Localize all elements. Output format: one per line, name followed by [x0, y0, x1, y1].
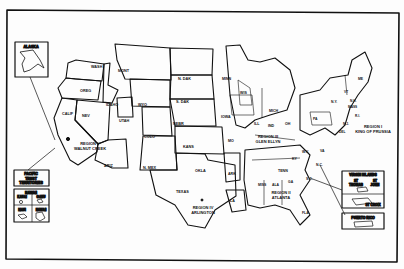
region-v-office-marker [66, 137, 69, 140]
st-thomas-2: THOMAS [349, 183, 363, 187]
label-mo: MO [228, 139, 234, 143]
oahu-label: OAHU [37, 195, 46, 199]
label-nev: NEV [82, 114, 90, 118]
pacific-label-1: PACIFIC [24, 172, 38, 176]
label-fla: FLA [302, 211, 309, 215]
label-nmex: N. MEX [143, 166, 157, 170]
label-texas: TEXAS [176, 190, 189, 194]
label-colo: COLO [144, 135, 155, 139]
hawaii-title: HAWAII [25, 191, 37, 195]
region-central [115, 44, 246, 228]
pacific-label-3: TERRITORIES [19, 181, 43, 185]
label-ind: IND [268, 124, 275, 128]
alaska-label: ALASKA [24, 45, 39, 49]
label-oh: OH [285, 122, 291, 126]
label-ndak: N. DAK [178, 77, 191, 81]
label-tenn: TENN [278, 169, 288, 173]
kauai-label: KAUAI [17, 195, 27, 199]
label-nh: N.H. [350, 99, 356, 103]
label-mass: MASS [348, 105, 357, 109]
pacific-hawaii-insets: PACIFIC TRUST TERRITORIES HAWAII KAUAI O… [14, 148, 55, 222]
label-miss: MISS [258, 183, 267, 187]
label-oreg: OREG [80, 89, 91, 93]
region-southeast [244, 135, 310, 225]
label-la: LA [230, 199, 235, 203]
pacific-label-2: TRUST [25, 177, 38, 181]
label-sc: S.C. [306, 177, 313, 181]
label-va: VA [320, 149, 325, 153]
region-midwest [226, 45, 295, 128]
label-wva: W.V. [302, 150, 309, 154]
label-okla: OKLA [195, 169, 206, 173]
label-iowa: IOWA [221, 115, 231, 119]
label-wis: WIS [240, 91, 247, 95]
region-iii-office: GLEN ELLYN [256, 139, 281, 144]
label-del: DEL [339, 130, 345, 134]
alaska-inset: ALASKA [15, 42, 55, 140]
puerto-rico-label: PUERTO RICO [351, 216, 375, 220]
label-me: ME [358, 77, 364, 81]
vi-title: VIRGIN ISLANDS [349, 173, 377, 177]
maui-label: MAUI [18, 208, 26, 212]
label-ariz: ARIZ [104, 164, 114, 168]
label-sdak: S. DAK [176, 100, 189, 104]
label-vt: VT [344, 90, 348, 94]
label-mich: MICH [269, 109, 279, 113]
label-kans: KANS [183, 145, 194, 149]
region-northeast [300, 52, 372, 135]
label-pa: PA [313, 117, 318, 121]
label-ala: ALA [272, 183, 280, 187]
label-calif: CALIF [62, 112, 74, 116]
label-ill: ILL [254, 122, 260, 126]
label-nc: N.C. [316, 163, 323, 167]
label-idaho: IDAHO [106, 103, 118, 107]
map-frame [6, 10, 399, 262]
label-nebr: NEBR [173, 122, 184, 126]
region-iv-office: ARLINGTON [191, 210, 215, 215]
region-iv-office-marker [201, 199, 203, 201]
label-ky: KY [292, 157, 298, 161]
label-minn: MINN [222, 77, 232, 81]
label-mont: MONT [118, 69, 130, 73]
label-ny: N.Y. [331, 100, 337, 104]
label-nj: N.J. [343, 122, 349, 126]
label-wyo: WYO [138, 103, 147, 107]
st-john-2: JOHN [371, 183, 381, 187]
region-v-office: WALNUT CREEK [74, 146, 106, 151]
label-ri: R.I. [355, 114, 360, 118]
region-ii-office: ATLANTA [272, 195, 290, 200]
caribbean-insets: VIRGIN ISLANDS ST THOMAS ST JOHN ST CROI… [310, 165, 384, 229]
region-i-office: KING OF PRUSSIA [355, 129, 391, 134]
label-ark: ARK [228, 172, 236, 176]
label-wash: WASH [91, 65, 103, 69]
label-utah: UTAH [119, 119, 130, 123]
us-regions-map: ALASKA PACIFIC TRUST TERRITORIES HAWAII … [0, 0, 404, 269]
label-ga: GA [288, 180, 294, 184]
st-croix-label: ST CROIX [365, 203, 381, 207]
hawaii-island-label: HAWAII [36, 208, 47, 212]
